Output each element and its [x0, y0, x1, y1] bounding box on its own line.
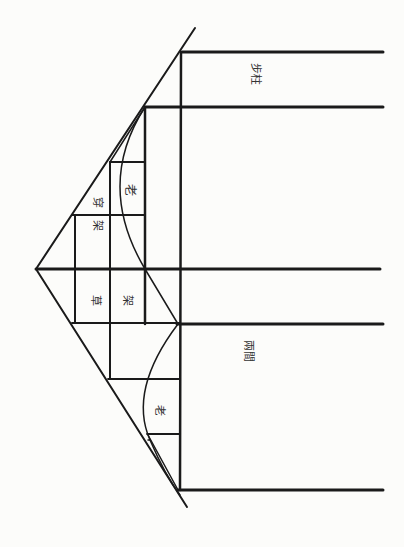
label-jia-upper: 架	[91, 220, 104, 231]
label-chuan: 穿	[91, 197, 105, 208]
inner-diagonal-mid	[145, 269, 178, 324]
diagram-labels: 步柱 穿 架 老 草 架 兩間 老	[89, 63, 263, 416]
post-outer	[180, 52, 181, 490]
label-lao-lower: 老	[153, 405, 166, 416]
roof-frame-diagram: 步柱 穿 架 老 草 架 兩間 老	[0, 0, 404, 547]
diagram-lines	[36, 28, 383, 507]
label-two-bays: 兩間	[242, 340, 255, 362]
roof-line-upper	[36, 28, 195, 269]
label-jia-lower: 架	[121, 295, 134, 306]
label-cao: 草	[89, 295, 102, 306]
label-lao-upper: 老	[123, 184, 137, 196]
curve-lower	[143, 324, 178, 440]
label-step-pillar: 步柱	[249, 63, 263, 85]
inner-diagonal-lower	[148, 435, 178, 490]
